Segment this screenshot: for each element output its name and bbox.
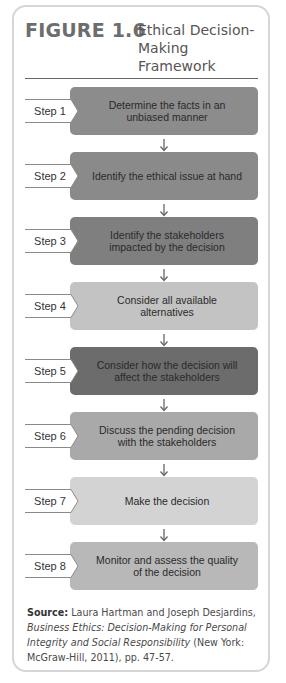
step-label-6: Step 6 bbox=[25, 424, 79, 448]
source-label: Source: bbox=[27, 607, 68, 618]
arrow-down-icon bbox=[159, 332, 169, 346]
step-box-3: Identify the stakeholders impacted by th… bbox=[70, 217, 258, 265]
step-text: Determine the facts in an unbiased manne… bbox=[92, 99, 242, 123]
step-text: Monitor and assess the quality of the de… bbox=[92, 554, 242, 578]
step-label-text: Step 6 bbox=[25, 424, 75, 448]
step-text: Discuss the pending decision with the st… bbox=[92, 424, 242, 448]
arrow-down-icon bbox=[159, 137, 169, 151]
step-label-text: Step 8 bbox=[25, 554, 75, 578]
step-label-text: Step 2 bbox=[25, 164, 75, 188]
step-box-6: Discuss the pending decision with the st… bbox=[70, 412, 258, 460]
arrow-down-icon bbox=[159, 267, 169, 281]
step-label-4: Step 4 bbox=[25, 294, 79, 318]
source-authors: Laura Hartman and Joseph Desjardins, bbox=[71, 607, 256, 618]
figure-number: FIGURE 1.6 bbox=[25, 19, 146, 41]
arrow-down-icon bbox=[159, 202, 169, 216]
arrow-down-icon bbox=[159, 462, 169, 476]
step-label-5: Step 5 bbox=[25, 359, 79, 383]
step-box-1: Determine the facts in an unbiased manne… bbox=[70, 87, 258, 135]
step-label-text: Step 5 bbox=[25, 359, 75, 383]
step-box-4: Consider all available alternatives bbox=[70, 282, 258, 330]
step-label-text: Step 3 bbox=[25, 229, 75, 253]
step-text: Consider all available alternatives bbox=[92, 294, 242, 318]
step-label-text: Step 4 bbox=[25, 294, 75, 318]
step-text: Make the decision bbox=[125, 495, 210, 507]
step-box-2: Identify the ethical issue at hand bbox=[70, 152, 258, 200]
arrow-down-icon bbox=[159, 397, 169, 411]
step-text: Consider how the decision will affect th… bbox=[92, 359, 242, 383]
step-label-7: Step 7 bbox=[25, 489, 79, 513]
step-label-text: Step 1 bbox=[25, 99, 75, 123]
step-label-3: Step 3 bbox=[25, 229, 79, 253]
step-box-7: Make the decision bbox=[70, 477, 258, 525]
step-label-text: Step 7 bbox=[25, 489, 75, 513]
arrow-down-icon bbox=[159, 527, 169, 541]
step-label-2: Step 2 bbox=[25, 164, 79, 188]
step-text: Identify the ethical issue at hand bbox=[92, 170, 242, 182]
title-divider bbox=[25, 78, 258, 79]
step-text: Identify the stakeholders impacted by th… bbox=[92, 229, 242, 253]
step-box-5: Consider how the decision will affect th… bbox=[70, 347, 258, 395]
step-label-8: Step 8 bbox=[25, 554, 79, 578]
step-box-8: Monitor and assess the quality of the de… bbox=[70, 542, 258, 590]
step-label-1: Step 1 bbox=[25, 99, 79, 123]
figure-title: Ethical Decision-Making Framework bbox=[138, 21, 268, 75]
source-citation: Source: Laura Hartman and Joseph Desjard… bbox=[27, 605, 263, 665]
